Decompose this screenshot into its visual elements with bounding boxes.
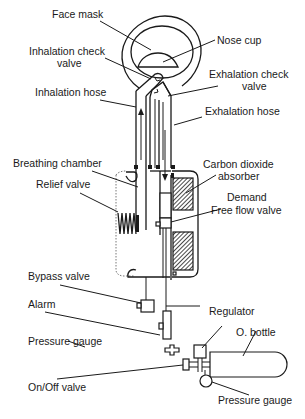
nose-cup	[138, 53, 178, 67]
demand-free-flow-valve	[156, 218, 171, 278]
on-off-valve	[183, 359, 210, 370]
label-inhalation-check-valve-line1: Inhalation check	[29, 45, 106, 57]
alarm	[159, 278, 200, 339]
label-carbon-dioxide-absorber-line1: Carbon dioxide	[203, 158, 274, 170]
label-pressure-gauge-right: Pressure gauge	[218, 394, 292, 406]
label-nose-cup: Nose cup	[217, 34, 262, 46]
exhalation-hose	[150, 82, 171, 168]
bypass-valve	[137, 277, 154, 312]
exhalation-check-valve	[154, 89, 158, 93]
face-mask	[122, 16, 201, 88]
label-face-mask: Face mask	[52, 8, 104, 20]
pressure-gauge-connector	[165, 345, 179, 355]
label-on-off-valve: On/Off valve	[28, 381, 86, 393]
label-relief-valve: Relief valve	[36, 178, 90, 190]
label-pressure-gauge-left: Pressure gauge	[28, 335, 102, 347]
label-inhalation-hose: Inhalation hose	[35, 86, 106, 98]
label-exhalation-check-valve-line1: Exhalation check	[209, 68, 289, 80]
label-demand: Demand	[227, 191, 267, 203]
inhalation-flow-arrow-up	[138, 108, 144, 160]
label-breathing-chamber: Breathing chamber	[13, 157, 102, 169]
label-exhalation-hose: Exhalation hose	[205, 105, 280, 117]
breathing-apparatus-diagram: Face mask Nose cup Inhalation check valv…	[0, 0, 305, 419]
regulator	[194, 345, 206, 372]
label-bypass-valve: Bypass valve	[28, 270, 90, 282]
oxygen-bottle	[210, 352, 287, 377]
diagram-canvas: Face mask Nose cup Inhalation check valv…	[0, 0, 305, 419]
label-regulator: Regulator	[209, 305, 255, 317]
label-o-bottle: O. bottle	[236, 326, 276, 338]
label-inhalation-check-valve-line2: valve	[57, 57, 82, 69]
label-alarm: Alarm	[28, 298, 56, 310]
labels: Face mask Nose cup Inhalation check valv…	[13, 8, 292, 406]
label-carbon-dioxide-absorber-line2: absorber	[218, 170, 260, 182]
carbon-dioxide-absorber	[171, 171, 198, 277]
label-free-flow-valve: Free flow valve	[211, 204, 282, 216]
label-exhalation-check-valve-line2: valve	[242, 80, 267, 92]
